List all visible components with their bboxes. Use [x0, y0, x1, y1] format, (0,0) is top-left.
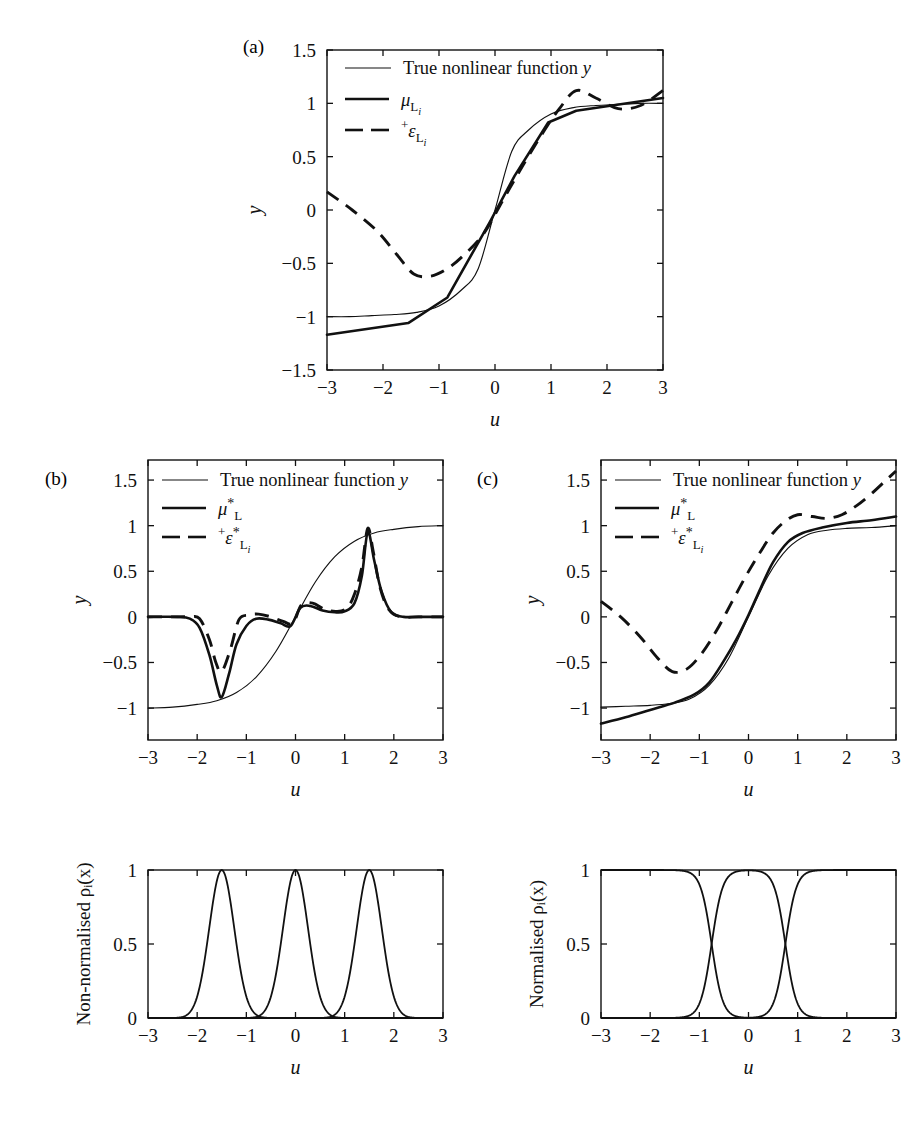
x-axis-label: u: [291, 778, 301, 800]
legend-label-eps-star: +ε*Li: [671, 524, 704, 555]
x-tick-label: 3: [438, 1025, 448, 1046]
y-tick-label: 1: [581, 860, 591, 881]
x-tick-label: 3: [658, 377, 668, 398]
basis-curve: [601, 870, 896, 1018]
y-tick-label: 0.5: [292, 147, 316, 168]
y-tick-label: 0: [307, 200, 317, 221]
y-axis-label: Non-normalised ρᵢ(x): [73, 863, 95, 1026]
x-tick-label: 2: [389, 1025, 399, 1046]
x-tick-label: −3: [317, 377, 337, 398]
y-tick-label: −0.5: [556, 652, 590, 673]
y-tick-label: 0: [581, 1008, 591, 1029]
panel-a-plot: −3−2−10123u−1.5−1−0.500.511.5yTrue nonli…: [0, 0, 700, 440]
x-tick-label: −1: [689, 747, 709, 768]
curve-dashed: [327, 90, 663, 277]
x-tick-label: 0: [490, 377, 500, 398]
panel-c-plot: −3−2−10123u−1−0.500.511.5yTrue nonlinear…: [453, 448, 923, 848]
x-tick-label: 3: [891, 747, 901, 768]
x-tick-label: −3: [591, 747, 611, 768]
x-tick-label: 1: [340, 1025, 350, 1046]
figure-root: (a) −3−2−10123u−1.5−1−0.500.511.5yTrue n…: [0, 0, 923, 1128]
y-tick-label: 0: [128, 607, 138, 628]
y-tick-label: 1: [307, 93, 317, 114]
y-axis-label: y: [243, 205, 266, 216]
x-tick-label: −2: [187, 1025, 207, 1046]
x-tick-label: −1: [429, 377, 449, 398]
x-axis-label: u: [490, 408, 500, 430]
panel-b-plot: −3−2−10123u−1−0.500.511.5yTrue nonlinear…: [0, 448, 470, 848]
x-tick-label: 0: [291, 747, 301, 768]
y-tick-label: −1: [117, 698, 137, 719]
x-tick-label: 0: [744, 747, 754, 768]
panel-b-frame: [148, 460, 443, 740]
x-tick-label: −3: [138, 1025, 158, 1046]
basis-curve: [148, 870, 443, 1018]
x-tick-label: 0: [291, 1025, 301, 1046]
legend-label-true: True nonlinear function y: [403, 58, 592, 78]
x-tick-label: −3: [591, 1025, 611, 1046]
y-tick-label: −1.5: [282, 360, 316, 381]
x-tick-label: −2: [640, 747, 660, 768]
basis-curve: [148, 870, 443, 1018]
x-axis-label: u: [744, 778, 754, 800]
y-tick-label: −0.5: [282, 253, 316, 274]
y-tick-label: 1: [128, 860, 138, 881]
y-tick-label: 1: [581, 516, 591, 537]
y-tick-label: −0.5: [103, 652, 137, 673]
legend-label-eps: +εLi: [401, 117, 427, 148]
legend-label-eps-star: +ε*Li: [218, 524, 251, 555]
x-tick-label: 2: [602, 377, 612, 398]
legend-label-mu-star: μ*L: [670, 496, 695, 523]
y-axis-label: y: [521, 595, 544, 606]
x-tick-label: 1: [546, 377, 556, 398]
curve-thick-solid: [601, 517, 896, 724]
curve-dashed: [601, 471, 896, 672]
x-tick-label: −2: [373, 377, 393, 398]
panel-c-frame: [601, 460, 896, 740]
x-tick-label: 1: [793, 747, 803, 768]
x-tick-label: 1: [340, 747, 350, 768]
y-tick-label: 1.5: [113, 470, 137, 491]
x-tick-label: −1: [236, 747, 256, 768]
x-tick-label: −3: [138, 747, 158, 768]
legend-label-mu: μLi: [400, 90, 421, 117]
x-tick-label: 3: [438, 747, 448, 768]
y-tick-label: 0: [581, 607, 591, 628]
panel-basis-left-frame: [148, 870, 443, 1018]
y-axis-label: Normalised ρᵢ(x): [526, 880, 548, 1008]
y-tick-label: 0.5: [113, 561, 137, 582]
y-tick-label: 0.5: [113, 934, 137, 955]
y-tick-label: −1: [570, 698, 590, 719]
curve-dashed: [148, 528, 443, 672]
x-tick-label: −2: [187, 747, 207, 768]
y-tick-label: 0.5: [566, 561, 590, 582]
y-tick-label: 1.5: [566, 470, 590, 491]
legend-label-mu-star: μ*L: [217, 496, 242, 523]
panel-basis-right-frame: [601, 870, 896, 1018]
curve-thick-solid: [327, 98, 663, 335]
panel-basis-right-plot: −3−2−10123u00.51Normalised ρᵢ(x): [453, 848, 923, 1128]
x-tick-label: 3: [891, 1025, 901, 1046]
y-tick-label: 0: [128, 1008, 138, 1029]
panel-basis-left-plot: −3−2−10123u00.51Non-normalised ρᵢ(x): [0, 848, 470, 1128]
basis-curve: [601, 870, 896, 1018]
y-axis-label: y: [68, 595, 91, 606]
basis-curve: [601, 870, 896, 1018]
y-tick-label: 1.5: [292, 40, 316, 61]
legend-label-true: True nonlinear function y: [220, 470, 409, 490]
y-tick-label: 0.5: [566, 934, 590, 955]
x-axis-label: u: [291, 1056, 301, 1078]
x-tick-label: 1: [793, 1025, 803, 1046]
x-axis-label: u: [744, 1056, 754, 1078]
x-tick-label: 2: [389, 747, 399, 768]
legend-label-true: True nonlinear function y: [673, 470, 862, 490]
y-tick-label: −1: [296, 307, 316, 328]
x-tick-label: 2: [842, 1025, 852, 1046]
basis-curve: [148, 870, 443, 1018]
x-tick-label: −1: [689, 1025, 709, 1046]
x-tick-label: 2: [842, 747, 852, 768]
x-tick-label: −2: [640, 1025, 660, 1046]
x-tick-label: 0: [744, 1025, 754, 1046]
x-tick-label: −1: [236, 1025, 256, 1046]
y-tick-label: 1: [128, 516, 138, 537]
